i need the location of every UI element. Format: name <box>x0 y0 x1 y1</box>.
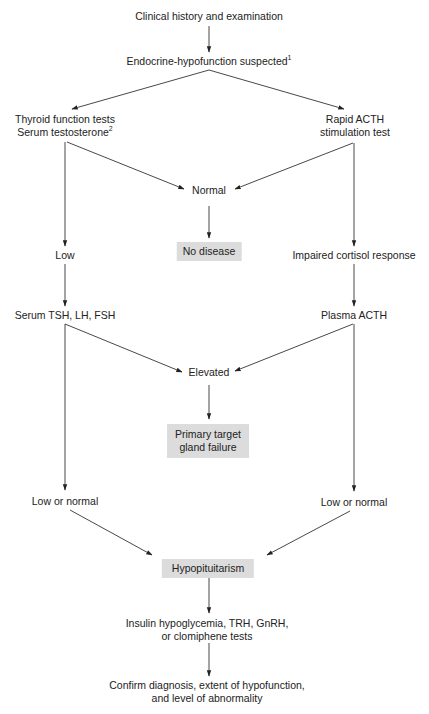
node-plasma-acth: Plasma ACTH <box>321 309 387 322</box>
node-hypopituitarism-text: Hypopituitarism <box>172 562 244 574</box>
node-primary-target-gland-failure: Primary target gland failure <box>167 424 249 458</box>
node-rapid-acth-stimulation-test: Rapid ACTH stimulation test <box>320 113 390 139</box>
edge-acth-to-normal <box>235 143 353 189</box>
node-no-disease-text: No disease <box>183 245 236 257</box>
node-acth-line2: stimulation test <box>320 126 390 139</box>
node-endocrine-hypofunction-suspected: Endocrine-hypofunction suspected1 <box>126 55 291 68</box>
edge-suspected-to-acth <box>209 70 344 109</box>
node-impaired-text: Impaired cortisol response <box>292 249 415 261</box>
node-clinical-history: Clinical history and examination <box>135 10 283 23</box>
node-insulin-line2: or clomiphene tests <box>126 630 289 643</box>
node-insulin-hypoglycemia-tests: Insulin hypoglycemia, TRH, GnRH, or clom… <box>126 617 289 643</box>
node-low: Low <box>55 249 74 262</box>
node-confirm-line1: Confirm diagnosis, extent of hypofunctio… <box>109 679 305 692</box>
node-thyroid-line2: Serum testosterone <box>17 126 109 138</box>
footnote-marker-1: 1 <box>288 54 292 61</box>
flowchart-edges <box>0 0 429 714</box>
node-low-text: Low <box>55 249 74 261</box>
node-low-normal-right-text: Low or normal <box>321 496 388 508</box>
node-acth-line1: Rapid ACTH <box>320 113 390 126</box>
node-hypopituitarism: Hypopituitarism <box>162 559 254 578</box>
node-low-or-normal-left: Low or normal <box>32 495 99 508</box>
node-thyroid-function-tests: Thyroid function tests Serum testosteron… <box>15 113 115 139</box>
node-serum-tsh-text: Serum TSH, LH, FSH <box>15 309 116 321</box>
node-confirm-line2: and level of abnormality <box>109 692 305 705</box>
edge-plasma-acth-to-elevated <box>235 324 353 371</box>
node-plasma-acth-text: Plasma ACTH <box>321 309 387 321</box>
edge-thyroid-to-normal <box>67 142 184 189</box>
edge-serum-tsh-to-elevated <box>65 324 182 372</box>
node-low-normal-left-text: Low or normal <box>32 495 99 507</box>
node-primary-line1: Primary target <box>175 428 241 441</box>
node-serum-tsh-lh-fsh: Serum TSH, LH, FSH <box>15 309 116 322</box>
node-no-disease: No disease <box>177 242 242 261</box>
edge-low-normal-right-to-hypopituitarism <box>267 511 350 555</box>
edge-suspected-to-thyroid <box>72 70 209 109</box>
endocrine-hypofunction-flowchart: Clinical history and examination Endocri… <box>0 0 429 714</box>
footnote-marker-2: 2 <box>109 125 113 132</box>
node-normal-text: Normal <box>192 184 226 196</box>
node-normal: Normal <box>192 184 226 197</box>
node-clinical-history-text: Clinical history and examination <box>135 10 283 22</box>
node-thyroid-line1: Thyroid function tests <box>15 113 115 126</box>
node-low-or-normal-right: Low or normal <box>321 496 388 509</box>
node-impaired-cortisol-response: Impaired cortisol response <box>292 249 415 262</box>
node-insulin-line1: Insulin hypoglycemia, TRH, GnRH, <box>126 617 289 630</box>
node-suspected-text: Endocrine-hypofunction suspected <box>126 55 287 67</box>
node-elevated-text: Elevated <box>189 366 230 378</box>
node-elevated: Elevated <box>189 366 230 379</box>
edge-low-normal-left-to-hypopituitarism <box>70 510 152 555</box>
node-primary-line2: gland failure <box>175 441 241 454</box>
node-confirm-diagnosis: Confirm diagnosis, extent of hypofunctio… <box>109 679 305 705</box>
